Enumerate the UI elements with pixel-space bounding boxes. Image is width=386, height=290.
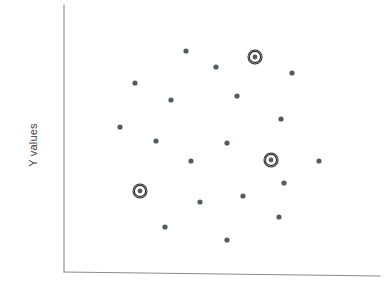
data-point-marker: [253, 55, 258, 60]
data-point[interactable]: [234, 93, 239, 98]
highlighted-data-point[interactable]: [248, 50, 262, 64]
data-point[interactable]: [132, 80, 137, 85]
data-point[interactable]: [183, 48, 188, 53]
data-point[interactable]: [289, 70, 294, 75]
data-point[interactable]: [278, 116, 283, 121]
data-point[interactable]: [197, 199, 202, 204]
highlighted-data-point[interactable]: [264, 153, 278, 167]
data-point[interactable]: [188, 158, 193, 163]
data-point[interactable]: [224, 140, 229, 145]
data-point-marker: [138, 189, 143, 194]
data-point[interactable]: [316, 158, 321, 163]
data-point[interactable]: [276, 214, 281, 219]
data-point-marker: [269, 158, 274, 163]
data-point[interactable]: [213, 64, 218, 69]
axes-group: [64, 5, 380, 276]
scatter-plot-canvas: [0, 0, 386, 290]
data-points-group: [117, 48, 321, 242]
data-point[interactable]: [224, 237, 229, 242]
x-axis-line: [64, 272, 380, 276]
data-point[interactable]: [117, 124, 122, 129]
data-point[interactable]: [240, 193, 245, 198]
data-point[interactable]: [153, 138, 158, 143]
scatter-plot-figure: Y values: [0, 0, 386, 290]
highlighted-data-point[interactable]: [133, 184, 147, 198]
data-point[interactable]: [162, 224, 167, 229]
data-point[interactable]: [281, 180, 286, 185]
data-point[interactable]: [168, 97, 173, 102]
